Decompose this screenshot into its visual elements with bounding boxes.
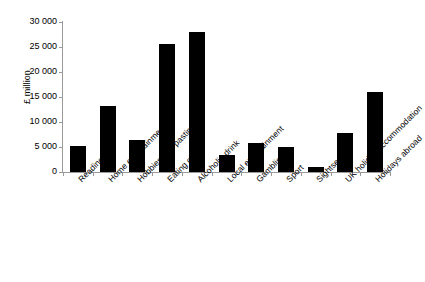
x-category-label: Reading [76,154,106,184]
x-category-label: Sport [284,162,306,184]
